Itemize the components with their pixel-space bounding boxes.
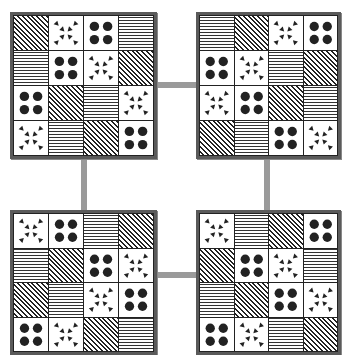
- four-dots-icon: [304, 16, 338, 50]
- inward-arrows-icon: [119, 249, 153, 283]
- inward-arrows-icon: [200, 214, 234, 248]
- cell-horizontal-lines: [84, 86, 118, 120]
- four-dots-icon: [84, 249, 118, 283]
- cell-horizontal-lines: [235, 121, 269, 155]
- cell-diagonal-hatch: [84, 121, 118, 155]
- inward-arrows-icon: [14, 214, 48, 248]
- cell-horizontal-lines: [14, 249, 48, 283]
- inward-arrows-icon: [14, 121, 48, 155]
- cell-horizontal-lines: [304, 86, 338, 120]
- cell-diagonal-hatch: [84, 318, 118, 352]
- cell-horizontal-lines: [269, 51, 303, 85]
- cell-diagonal-hatch: [14, 283, 48, 317]
- inward-arrows-icon: [84, 51, 118, 85]
- cell-inward-arrows: [119, 86, 153, 120]
- cell-diagonal-hatch: [49, 86, 83, 120]
- connector-left-vertical: [81, 155, 87, 215]
- cell-four-dots: [200, 318, 234, 352]
- cell-horizontal-lines: [14, 51, 48, 85]
- cell-four-dots: [269, 283, 303, 317]
- four-dots-icon: [49, 51, 83, 85]
- cell-inward-arrows: [84, 51, 118, 85]
- four-dots-icon: [49, 214, 83, 248]
- four-dots-icon: [200, 51, 234, 85]
- cell-diagonal-hatch: [14, 16, 48, 50]
- cell-horizontal-lines: [119, 318, 153, 352]
- grid-bottom-left: [10, 210, 157, 355]
- four-dots-icon: [269, 283, 303, 317]
- cell-diagonal-hatch: [200, 121, 234, 155]
- cell-four-dots: [14, 86, 48, 120]
- cell-diagonal-hatch: [304, 51, 338, 85]
- cell-diagonal-hatch: [269, 214, 303, 248]
- inward-arrows-icon: [200, 86, 234, 120]
- four-dots-icon: [269, 121, 303, 155]
- cell-inward-arrows: [304, 121, 338, 155]
- inward-arrows-icon: [269, 249, 303, 283]
- cell-inward-arrows: [84, 283, 118, 317]
- cell-four-dots: [119, 121, 153, 155]
- cell-four-dots: [304, 16, 338, 50]
- cell-four-dots: [269, 121, 303, 155]
- inward-arrows-icon: [49, 318, 83, 352]
- cell-inward-arrows: [14, 121, 48, 155]
- four-dots-icon: [200, 318, 234, 352]
- cell-inward-arrows: [49, 16, 83, 50]
- cell-inward-arrows: [235, 51, 269, 85]
- four-dots-icon: [84, 16, 118, 50]
- cell-four-dots: [235, 86, 269, 120]
- inward-arrows-icon: [49, 16, 83, 50]
- cell-inward-arrows: [304, 283, 338, 317]
- connector-right-vertical: [264, 155, 270, 215]
- four-dots-icon: [304, 214, 338, 248]
- cell-horizontal-lines: [119, 16, 153, 50]
- cell-inward-arrows: [200, 86, 234, 120]
- cell-horizontal-lines: [49, 121, 83, 155]
- inward-arrows-icon: [119, 86, 153, 120]
- cell-inward-arrows: [235, 318, 269, 352]
- inward-arrows-icon: [304, 283, 338, 317]
- inward-arrows-icon: [269, 16, 303, 50]
- cell-horizontal-lines: [200, 16, 234, 50]
- four-dots-icon: [119, 121, 153, 155]
- cell-four-dots: [84, 16, 118, 50]
- cell-horizontal-lines: [200, 283, 234, 317]
- cell-diagonal-hatch: [200, 249, 234, 283]
- grid-bottom-right: [196, 210, 341, 355]
- grid-top-right: [196, 12, 341, 159]
- four-dots-icon: [235, 249, 269, 283]
- four-dots-icon: [235, 86, 269, 120]
- cell-diagonal-hatch: [269, 86, 303, 120]
- cell-four-dots: [304, 214, 338, 248]
- four-dots-icon: [119, 283, 153, 317]
- inward-arrows-icon: [84, 283, 118, 317]
- inward-arrows-icon: [235, 51, 269, 85]
- cell-inward-arrows: [119, 249, 153, 283]
- four-dots-icon: [14, 86, 48, 120]
- cell-diagonal-hatch: [119, 214, 153, 248]
- cell-diagonal-hatch: [49, 249, 83, 283]
- cell-inward-arrows: [269, 16, 303, 50]
- four-dots-icon: [14, 318, 48, 352]
- cell-four-dots: [84, 249, 118, 283]
- cell-horizontal-lines: [235, 214, 269, 248]
- cell-inward-arrows: [269, 249, 303, 283]
- cell-four-dots: [49, 214, 83, 248]
- cell-inward-arrows: [200, 214, 234, 248]
- cell-inward-arrows: [14, 214, 48, 248]
- cell-four-dots: [235, 249, 269, 283]
- connector-top-horizontal: [155, 82, 199, 88]
- cell-horizontal-lines: [304, 249, 338, 283]
- cell-inward-arrows: [49, 318, 83, 352]
- cell-four-dots: [119, 283, 153, 317]
- cell-diagonal-hatch: [235, 16, 269, 50]
- cell-horizontal-lines: [84, 214, 118, 248]
- grid-top-left: [10, 12, 157, 159]
- cell-diagonal-hatch: [304, 318, 338, 352]
- cell-horizontal-lines: [269, 318, 303, 352]
- cell-four-dots: [200, 51, 234, 85]
- cell-four-dots: [14, 318, 48, 352]
- cell-horizontal-lines: [49, 283, 83, 317]
- cell-diagonal-hatch: [119, 51, 153, 85]
- inward-arrows-icon: [235, 318, 269, 352]
